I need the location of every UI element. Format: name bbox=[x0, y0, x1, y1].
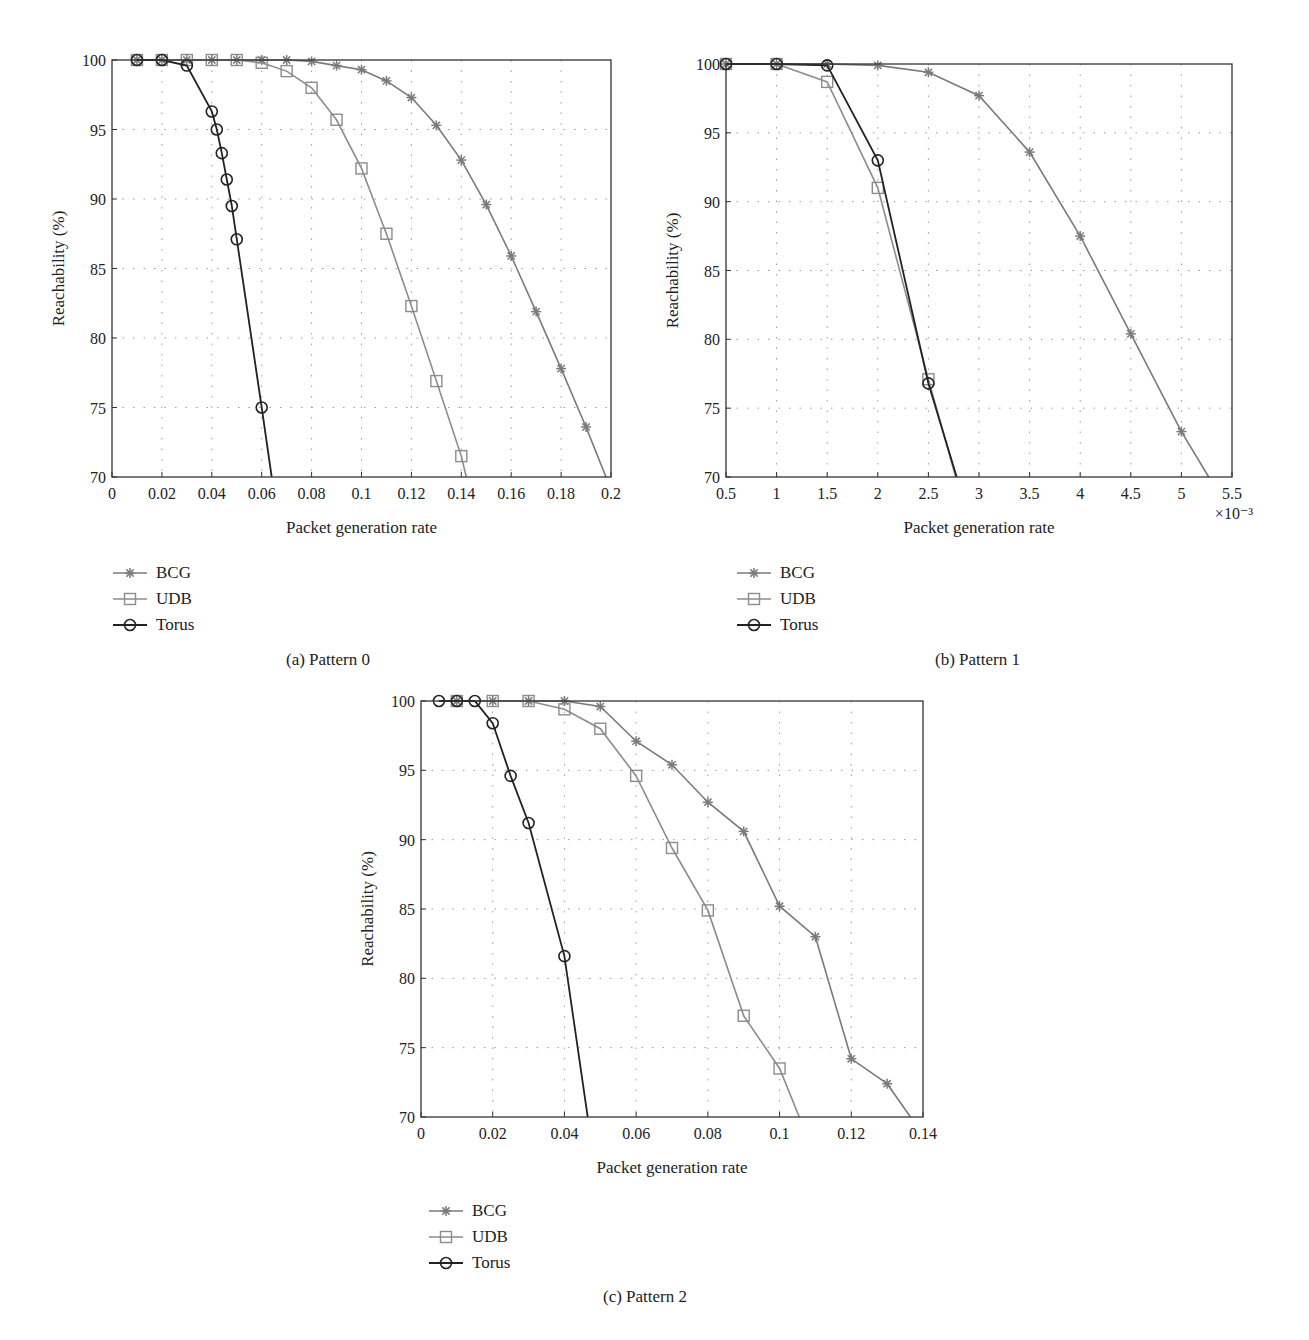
series-torus bbox=[433, 696, 587, 1118]
caption-c: (c) Pattern 2 bbox=[603, 1287, 687, 1307]
star-marker-icon bbox=[428, 1204, 464, 1218]
y-axis-label: Reachability (%) bbox=[358, 851, 377, 967]
x-tick-label: 0.06 bbox=[622, 1125, 650, 1142]
legend-item-torus: Torus bbox=[428, 1250, 510, 1276]
x-tick-label: 0.1 bbox=[770, 1125, 790, 1142]
legend-c: BCGUDBTorus bbox=[428, 1198, 510, 1276]
x-tick-label: 0.04 bbox=[550, 1125, 578, 1142]
star-marker bbox=[846, 1054, 856, 1064]
legend-label: UDB bbox=[472, 1224, 508, 1250]
y-tick-label: 80 bbox=[399, 970, 415, 987]
series-udb bbox=[451, 696, 799, 1118]
x-tick-label: 0.08 bbox=[694, 1125, 722, 1142]
x-tick-label: 0 bbox=[417, 1125, 425, 1142]
square-marker-icon bbox=[428, 1230, 464, 1244]
star-marker bbox=[882, 1079, 892, 1089]
legend-item-bcg: BCG bbox=[428, 1198, 510, 1224]
star-marker bbox=[739, 826, 749, 836]
y-tick-label: 85 bbox=[399, 901, 415, 918]
x-axis-label: Packet generation rate bbox=[596, 1158, 747, 1177]
star-marker bbox=[595, 702, 605, 712]
star-marker bbox=[631, 736, 641, 746]
chart-panel-c: 00.020.040.060.080.10.120.14707580859095… bbox=[0, 0, 1309, 1190]
x-tick-label: 0.12 bbox=[837, 1125, 865, 1142]
x-tick-label: 0.02 bbox=[479, 1125, 507, 1142]
star-marker bbox=[775, 901, 785, 911]
legend-item-udb: UDB bbox=[428, 1224, 510, 1250]
legend-label: BCG bbox=[472, 1198, 507, 1224]
y-tick-label: 95 bbox=[399, 762, 415, 779]
star-marker bbox=[441, 1206, 451, 1216]
star-marker bbox=[810, 932, 820, 942]
y-tick-label: 75 bbox=[399, 1040, 415, 1057]
star-marker bbox=[703, 797, 713, 807]
chart-c-svg: 00.020.040.060.080.10.120.14707580859095… bbox=[0, 0, 1309, 1190]
series-bcg bbox=[452, 696, 911, 1117]
series-group bbox=[433, 696, 910, 1118]
circle-marker-icon bbox=[428, 1256, 464, 1270]
y-tick-label: 100 bbox=[391, 693, 415, 710]
legend-label: Torus bbox=[472, 1250, 510, 1276]
x-tick-label: 0.14 bbox=[909, 1125, 937, 1142]
star-marker bbox=[667, 760, 677, 770]
y-tick-label: 90 bbox=[399, 832, 415, 849]
y-tick-label: 70 bbox=[399, 1109, 415, 1126]
